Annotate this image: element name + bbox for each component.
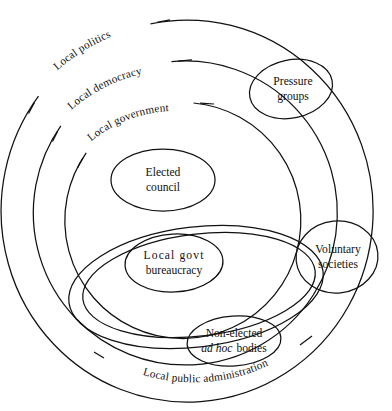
ring-local-government-arc <box>65 103 301 339</box>
ring-admin-tick-start <box>94 352 104 358</box>
ring-label-local-democracy: Local democracy <box>65 64 143 111</box>
node-local-govt-bureaucracy-line2: bureaucracy <box>146 264 203 277</box>
ring-label-local-public-administration-text: Local public administration <box>142 356 270 384</box>
node-local-govt-bureaucracy-line1: Local govt <box>144 249 205 262</box>
ring-label-local-public-administration: Local public administration <box>142 356 270 384</box>
ring-admin-tick-end <box>300 336 312 345</box>
node-non-elected-bodies-line2-italic: ad hoc <box>201 342 233 355</box>
venn-diagram-canvas: Local politics Local democracy Local gov… <box>0 0 392 411</box>
node-voluntary-societies-line2: societies <box>318 258 358 271</box>
ring-label-local-democracy-text: Local democracy <box>65 64 143 111</box>
ring-label-local-government: Local government <box>85 101 170 143</box>
ring-local-government-tick-start <box>200 103 214 104</box>
node-non-elected-bodies-line1: Non-elected <box>206 327 263 340</box>
node-non-elected-bodies-line2: ad hocbodies <box>201 342 267 355</box>
node-elected-council-line2: council <box>146 181 180 194</box>
ring-local-government-tick-end <box>78 158 84 168</box>
node-voluntary-societies: Voluntary societies <box>315 243 361 271</box>
node-non-elected-bodies-line2-roman: bodies <box>236 342 267 355</box>
node-elected-council-line1: Elected <box>146 166 181 179</box>
node-local-govt-bureaucracy: Local govt bureaucracy <box>144 249 205 277</box>
node-pressure-groups-line2: groups <box>277 90 309 103</box>
admin-inner-ellipse <box>77 220 322 350</box>
ring-label-local-government-text: Local government <box>85 101 170 143</box>
ring-local-government <box>65 103 301 339</box>
ring-label-local-politics: Local politics <box>51 27 112 71</box>
node-voluntary-societies-line1: Voluntary <box>315 243 361 256</box>
ring-local-democracy-arc <box>33 61 337 365</box>
ring-local-politics-tick-end <box>29 103 35 114</box>
diagram-root: Local politics Local democracy Local gov… <box>0 0 392 411</box>
node-pressure-groups-line1: Pressure <box>273 75 312 88</box>
node-elected-council: Elected council <box>146 166 181 194</box>
node-pressure-groups: Pressure groups <box>273 75 312 103</box>
ring-label-local-politics-text: Local politics <box>51 27 112 71</box>
